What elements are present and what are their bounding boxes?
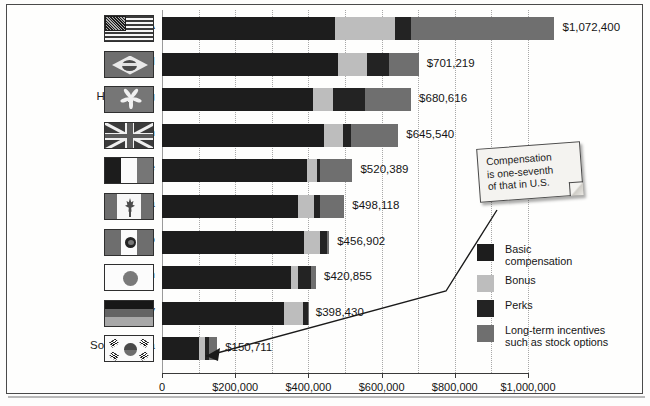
stacked-bar[interactable] xyxy=(162,17,554,40)
x-axis-tick-label: $200,000 xyxy=(212,381,258,393)
bar-segment-bonus[interactable] xyxy=(307,159,317,182)
x-axis-tick xyxy=(235,373,236,378)
flag-japan-icon xyxy=(104,264,154,291)
bar-segment-bonus[interactable] xyxy=(313,88,333,111)
callout-box: Compensation is one-seventh of that in U… xyxy=(476,141,584,202)
chart-row: Brazil$701,219 xyxy=(0,48,650,81)
bar-segment-perks[interactable] xyxy=(395,17,410,40)
legend-item[interactable]: Bonus xyxy=(477,274,645,292)
flag-mexico-icon xyxy=(104,229,154,256)
x-axis-line xyxy=(162,373,529,374)
bar-segment-lti[interactable] xyxy=(311,266,316,289)
bar-segment-basic[interactable] xyxy=(162,302,284,325)
chart-legend: Basic compensationBonusPerksLong-term in… xyxy=(477,243,645,355)
chart-row: USA$1,072,400 xyxy=(0,12,650,45)
bar-segment-basic[interactable] xyxy=(162,195,298,218)
legend-item[interactable]: Basic compensation xyxy=(477,243,645,267)
bar-segment-basic[interactable] xyxy=(162,231,304,254)
bar-segment-basic[interactable] xyxy=(162,88,313,111)
bar-value-label: $420,855 xyxy=(324,270,372,282)
legend-swatch-basic-compensation xyxy=(477,244,494,261)
bar-value-label: $456,902 xyxy=(337,235,385,247)
bar-segment-bonus[interactable] xyxy=(284,302,303,325)
flag-britain-icon xyxy=(104,122,154,149)
bar-segment-lti[interactable] xyxy=(351,124,398,147)
chart-row: Hong Kong$680,616 xyxy=(0,83,650,116)
callout-text: Compensation is one-seventh of that in U… xyxy=(486,149,581,193)
bar-segment-lti[interactable] xyxy=(389,53,419,76)
stacked-bar[interactable] xyxy=(162,159,352,182)
x-axis-tick xyxy=(455,373,456,378)
stacked-bar[interactable] xyxy=(162,302,308,325)
bar-segment-bonus[interactable] xyxy=(324,124,343,147)
bar-value-label: $498,118 xyxy=(352,199,399,211)
bar-value-label: $398,430 xyxy=(316,306,364,318)
bar-segment-bonus[interactable] xyxy=(199,337,206,360)
bar-segment-bonus[interactable] xyxy=(291,266,298,289)
legend-label: Perks xyxy=(505,299,533,312)
bar-segment-lti[interactable] xyxy=(209,337,217,360)
bar-segment-perks[interactable] xyxy=(343,124,351,147)
x-axis-tick-label: $800,000 xyxy=(432,381,478,393)
bar-segment-perks[interactable] xyxy=(314,195,321,218)
bar-segment-lti[interactable] xyxy=(365,88,411,111)
bar-segment-perks[interactable] xyxy=(367,53,389,76)
bar-segment-basic[interactable] xyxy=(162,337,199,360)
bar-value-label: $150,711 xyxy=(225,341,272,353)
x-axis-tick xyxy=(382,373,383,378)
bar-segment-lti[interactable] xyxy=(327,231,329,254)
bar-segment-bonus[interactable] xyxy=(304,231,320,254)
x-axis-tick-label: $400,000 xyxy=(285,381,331,393)
bar-value-label: $520,389 xyxy=(360,163,408,175)
legend-label: Bonus xyxy=(505,274,536,287)
bar-segment-basic[interactable] xyxy=(162,53,338,76)
callout-curled-corner xyxy=(569,181,584,196)
bar-segment-lti[interactable] xyxy=(320,159,352,182)
bar-value-label: $645,540 xyxy=(406,128,454,140)
x-axis-tick-label: $600,000 xyxy=(359,381,405,393)
stacked-bar[interactable] xyxy=(162,88,411,111)
bar-value-label: $701,219 xyxy=(427,57,475,69)
legend-swatch-perks xyxy=(477,300,494,317)
legend-label: Long-term incentives such as stock optio… xyxy=(505,324,608,348)
stacked-bar[interactable] xyxy=(162,53,419,76)
flag-hong-kong-icon xyxy=(104,86,154,113)
stacked-bar[interactable] xyxy=(162,337,217,360)
bar-segment-bonus[interactable] xyxy=(335,17,396,40)
stacked-bar[interactable] xyxy=(162,195,344,218)
flag-germany-icon xyxy=(104,300,154,327)
legend-label: Basic compensation xyxy=(505,243,572,267)
legend-swatch-bonus xyxy=(477,275,494,292)
x-axis-tick-label: 0 xyxy=(159,381,165,393)
bar-segment-bonus[interactable] xyxy=(338,53,366,76)
legend-item[interactable]: Perks xyxy=(477,299,645,317)
chart-page: USA$1,072,400Brazil$701,219Hong Kong$680… xyxy=(0,0,650,406)
flag-brazil-icon xyxy=(104,51,154,78)
bar-value-label: $680,616 xyxy=(419,92,467,104)
x-axis-tick-label: $1,000,000 xyxy=(500,381,555,393)
bar-segment-basic[interactable] xyxy=(162,159,307,182)
stacked-bar[interactable] xyxy=(162,231,329,254)
x-axis-tick xyxy=(308,373,309,378)
flag-south-korea-icon xyxy=(104,335,154,362)
bar-segment-perks[interactable] xyxy=(298,266,311,289)
bar-segment-basic[interactable] xyxy=(162,124,324,147)
bar-segment-perks[interactable] xyxy=(320,231,327,254)
flag-usa-icon xyxy=(104,15,154,42)
legend-swatch-long-term-incentives xyxy=(477,325,494,342)
bar-segment-bonus[interactable] xyxy=(298,195,313,218)
stacked-bar[interactable] xyxy=(162,266,316,289)
flag-france-icon xyxy=(104,157,154,184)
bar-segment-basic[interactable] xyxy=(162,266,291,289)
legend-item[interactable]: Long-term incentives such as stock optio… xyxy=(477,324,645,348)
bar-segment-perks[interactable] xyxy=(333,88,365,111)
bar-value-label: $1,072,400 xyxy=(562,21,620,33)
stacked-bar[interactable] xyxy=(162,124,398,147)
bar-segment-lti[interactable] xyxy=(411,17,555,40)
bar-segment-lti[interactable] xyxy=(320,195,344,218)
x-axis-tick xyxy=(528,373,529,378)
x-axis-tick xyxy=(162,373,163,378)
bar-segment-basic[interactable] xyxy=(162,17,335,40)
flag-canada-icon xyxy=(104,193,154,220)
callout-note: Compensation is one-seventh of that in U… xyxy=(478,145,590,207)
